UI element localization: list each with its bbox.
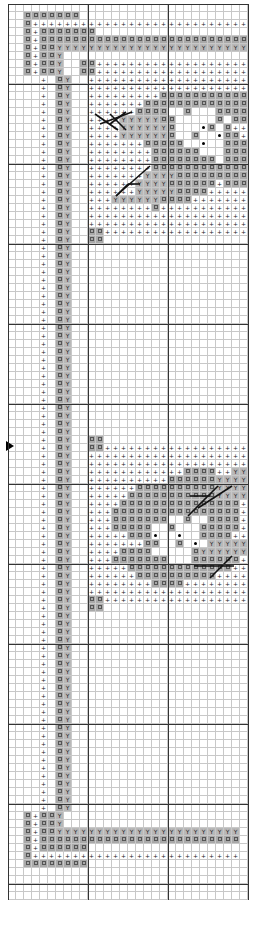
empty-cell [96,292,104,300]
empty-cell [16,172,24,180]
empty-cell [232,12,240,20]
dark-gray-box-symbol [112,524,120,532]
empty-cell [200,4,208,12]
empty-cell [184,684,192,692]
dark-gray-box-symbol [184,500,192,508]
empty-cell [88,356,96,364]
empty-cell [144,708,152,716]
empty-cell [208,788,216,796]
gray-Y-symbol: Y [56,60,64,68]
chart-row: +Y [8,604,248,612]
empty-cell [152,436,160,444]
empty-cell [112,236,120,244]
empty-cell [144,892,152,900]
empty-cell [240,420,248,428]
dark-gray-box-symbol [72,836,80,844]
empty-cell [192,116,200,124]
empty-cell [120,284,128,292]
empty-cell [88,332,96,340]
gray-Y-symbol: Y [56,812,64,820]
empty-cell [224,116,232,124]
plus-symbol: + [40,692,48,700]
empty-cell [104,404,112,412]
empty-cell [80,596,88,604]
plus-symbol: + [40,324,48,332]
empty-cell [16,476,24,484]
gray-Y-symbol: Y [64,532,72,540]
gray-Y-symbol: Y [144,172,152,180]
empty-cell [200,684,208,692]
empty-cell [240,644,248,652]
plus-symbol: + [136,852,144,860]
empty-cell [240,28,248,36]
empty-cell [112,388,120,396]
empty-cell [152,236,160,244]
empty-cell [240,884,248,892]
empty-cell [104,284,112,292]
empty-cell [192,52,200,60]
empty-cell [8,500,16,508]
empty-cell [32,212,40,220]
gray-Y-symbol: Y [64,676,72,684]
dark-gray-box-symbol [152,156,160,164]
empty-cell [8,132,16,140]
empty-cell [96,348,104,356]
empty-cell [176,708,184,716]
empty-cell [24,556,32,564]
plus-symbol: + [144,84,152,92]
empty-cell [104,756,112,764]
empty-cell [16,260,24,268]
chart-row: +Y++++++YYYY+ [8,180,248,188]
gray-Y-symbol: Y [136,132,144,140]
empty-cell [24,500,32,508]
plus-symbol: + [96,100,104,108]
empty-cell [224,732,232,740]
plus-symbol: + [128,180,136,188]
empty-cell [192,532,200,540]
empty-cell [144,52,152,60]
empty-cell [192,396,200,404]
dark-gray-box-symbol [208,156,216,164]
empty-cell [8,108,16,116]
empty-cell [24,532,32,540]
plus-symbol: + [88,148,96,156]
empty-cell [88,684,96,692]
dark-gray-box-symbol [24,844,32,852]
dark-gray-box-symbol [160,516,168,524]
empty-cell [136,404,144,412]
gray-Y-symbol: Y [64,556,72,564]
empty-cell [104,364,112,372]
empty-cell [192,612,200,620]
plus-symbol: + [152,84,160,92]
empty-cell [168,604,176,612]
empty-cell [8,372,16,380]
empty-cell [112,876,120,884]
empty-cell [160,316,168,324]
empty-cell [32,172,40,180]
plus-symbol: + [208,188,216,196]
dark-gray-box-symbol [216,116,224,124]
empty-cell [232,876,240,884]
plus-symbol: + [88,524,96,532]
dark-gray-box-symbol [24,60,32,68]
empty-cell [168,436,176,444]
empty-cell [128,644,136,652]
plus-symbol: + [56,20,64,28]
empty-cell [48,484,56,492]
dark-gray-box-symbol [224,132,232,140]
empty-cell [176,4,184,12]
chart-row: +Y [8,356,248,364]
empty-cell [184,724,192,732]
empty-cell [128,12,136,20]
empty-cell [176,740,184,748]
plus-symbol: + [136,140,144,148]
empty-cell [112,244,120,252]
empty-cell [120,844,128,852]
empty-cell [200,540,208,548]
empty-cell [184,116,192,124]
dark-gray-box-symbol [56,284,64,292]
empty-cell [96,868,104,876]
empty-cell [192,372,200,380]
empty-cell [32,484,40,492]
empty-cell [32,788,40,796]
